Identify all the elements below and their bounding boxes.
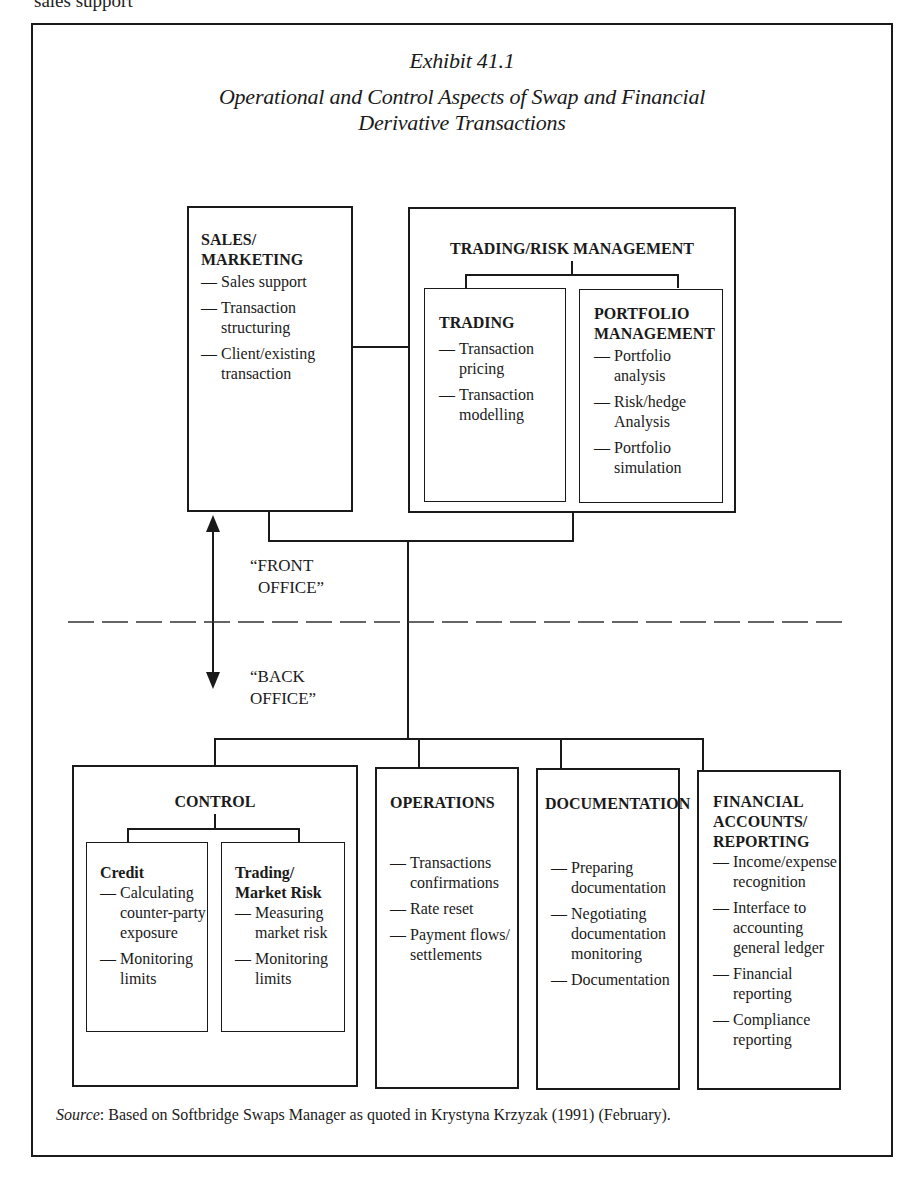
portfolio-items: —Portfolio analysis —Risk/hedge Analysis… <box>594 346 722 478</box>
credit-items: —Calculating counter-party exposure —Mon… <box>100 883 208 989</box>
front-office-label-line1: “FRONT <box>250 555 313 577</box>
financial-reporting-box: FINANCIAL ACCOUNTS/ REPORTING —Income/ex… <box>697 770 841 1090</box>
documentation-box: DOCUMENTATION —Preparing documentation —… <box>536 768 680 1090</box>
market-risk-subbox: Trading/ Market Risk —Measuring market r… <box>221 842 345 1032</box>
trading-subbox: TRADING —Transaction pricing —Transactio… <box>424 288 566 502</box>
source-note: Source: Based on Softbridge Swaps Manage… <box>56 1106 671 1124</box>
financial-heading-line2: ACCOUNTS/ <box>713 812 843 832</box>
connector-financial-drop <box>702 738 704 770</box>
connector-trunk <box>407 540 409 740</box>
list-item: —Compliance reporting <box>713 1010 843 1050</box>
bracket-left <box>465 274 467 288</box>
list-item: —Transactions confirmations <box>390 853 518 893</box>
list-item: —Monitoring limits <box>100 949 208 989</box>
connector-trading-drop <box>572 513 574 542</box>
sales-marketing-box: SALES/ MARKETING —Sales support —Transac… <box>187 206 353 512</box>
bracket-left <box>127 828 129 842</box>
list-item: —Monitoring limits <box>235 949 345 989</box>
portfolio-management-subbox: PORTFOLIO MANAGEMENT —Portfolio analysis… <box>579 289 723 503</box>
list-item: —Transaction structuring <box>201 298 349 338</box>
double-arrow-icon <box>200 515 230 695</box>
financial-heading-line1: FINANCIAL <box>713 792 843 812</box>
trading-items: —Transaction pricing —Transaction modell… <box>439 339 563 425</box>
connector-sales-drop <box>268 512 270 542</box>
list-item: —Portfolio analysis <box>594 346 722 386</box>
bracket-bar <box>465 274 678 276</box>
back-office-label-line1: “BACK <box>250 666 305 688</box>
bracket-stem <box>214 814 216 829</box>
bracket-right <box>298 828 300 842</box>
sales-heading-line2: MARKETING <box>201 250 349 270</box>
list-item: —Financial reporting <box>713 964 843 1004</box>
sales-heading-line1: SALES/ <box>201 230 349 250</box>
list-item: —Payment flows/ settlements <box>390 925 518 965</box>
connector-documentation-drop <box>560 738 562 768</box>
bracket-stem <box>571 261 573 275</box>
connector-control-drop <box>214 738 216 766</box>
portfolio-heading-line1: PORTFOLIO <box>594 304 722 324</box>
sales-items: —Sales support —Transaction structuring … <box>201 272 349 384</box>
list-item: —Client/existing transaction <box>201 344 349 384</box>
list-item: —Measuring market risk <box>235 903 345 943</box>
credit-heading: Credit <box>100 863 208 883</box>
bracket-bar <box>127 828 299 830</box>
exhibit-title-line1: Operational and Control Aspects of Swap … <box>31 84 893 110</box>
list-item: —Preparing documentation <box>551 858 679 898</box>
list-item: —Transaction modelling <box>439 385 563 425</box>
bracket-right <box>677 274 679 288</box>
documentation-items: —Preparing documentation —Negotiating do… <box>551 858 679 990</box>
financial-heading-line3: REPORTING <box>713 832 843 852</box>
list-item: —Documentation <box>551 970 679 990</box>
operations-items: —Transactions confirmations —Rate reset … <box>390 853 518 965</box>
market-risk-items: —Measuring market risk —Monitoring limit… <box>235 903 345 989</box>
connector-operations-drop <box>418 738 420 768</box>
list-item: —Calculating counter-party exposure <box>100 883 208 943</box>
financial-items: —Income/expense recognition —Interface t… <box>713 852 843 1050</box>
trading-heading: TRADING <box>439 313 563 333</box>
trading-risk-management-box: TRADING/RISK MANAGEMENT TRADING —Transac… <box>408 207 736 513</box>
market-risk-heading-line2: Market Risk <box>235 883 345 903</box>
page-cutoff-text: sales support <box>34 0 133 12</box>
market-risk-heading-line1: Trading/ <box>235 863 345 883</box>
source-label: Source <box>56 1106 100 1123</box>
exhibit-number: Exhibit 41.1 <box>31 48 893 74</box>
operations-box: OPERATIONS —Transactions confirmations —… <box>375 767 519 1089</box>
list-item: —Transaction pricing <box>439 339 563 379</box>
list-item: —Risk/hedge Analysis <box>594 392 722 432</box>
trading-risk-heading: TRADING/RISK MANAGEMENT <box>410 239 734 259</box>
back-office-label-line2: OFFICE” <box>250 688 316 710</box>
source-text: : Based on Softbridge Swaps Manager as q… <box>100 1106 671 1123</box>
operations-heading: OPERATIONS <box>390 793 518 813</box>
list-item: —Negotiating documentation monitoring <box>551 904 679 964</box>
list-item: —Interface to accounting general ledger <box>713 898 843 958</box>
credit-subbox: Credit —Calculating counter-party exposu… <box>86 842 208 1032</box>
documentation-heading: DOCUMENTATION <box>545 794 685 814</box>
portfolio-heading-line2: MANAGEMENT <box>594 324 722 344</box>
exhibit-title-line2: Derivative Transactions <box>31 110 893 136</box>
list-item: —Income/expense recognition <box>713 852 843 892</box>
list-item: —Rate reset <box>390 899 518 919</box>
connector-back-bus <box>214 738 704 740</box>
control-box: CONTROL Credit —Calculating counter-part… <box>72 765 358 1087</box>
front-back-divider <box>68 620 848 624</box>
connector-sales-trading <box>353 346 409 348</box>
list-item: —Sales support <box>201 272 349 292</box>
list-item: —Portfolio simulation <box>594 438 722 478</box>
connector-front-bus <box>268 540 574 542</box>
front-office-label-line2: OFFICE” <box>258 577 324 599</box>
control-heading: CONTROL <box>74 792 356 812</box>
